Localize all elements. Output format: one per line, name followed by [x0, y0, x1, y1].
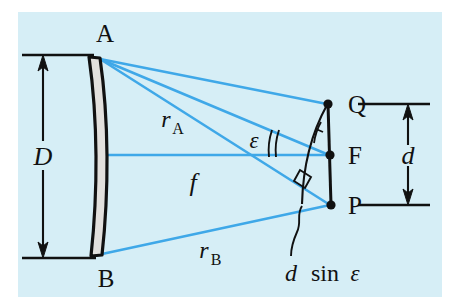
label-point-F: F	[348, 142, 362, 169]
dot-point-Q	[323, 99, 332, 108]
label-path-difference: d sin ε	[285, 260, 360, 286]
curved-aperture-optic	[89, 57, 107, 256]
label-path-difference-epsilon: ε	[350, 261, 360, 286]
label-ray-rA-base: r	[161, 106, 171, 132]
dot-point-P	[326, 200, 335, 209]
label-focal-length-f: f	[189, 168, 200, 197]
label-path-difference-sin: sin	[311, 260, 339, 286]
label-aperture-diameter-D: D	[33, 142, 53, 171]
label-separation-d: d	[402, 141, 416, 170]
dot-point-F	[325, 150, 334, 159]
label-point-P: P	[348, 192, 362, 219]
label-ray-rB-subscript: B	[211, 251, 222, 268]
label-ray-rB: r B	[199, 237, 221, 268]
ray-A-to-F	[100, 59, 329, 155]
label-ray-rB-base: r	[199, 237, 209, 263]
label-point-Q: Q	[348, 91, 366, 118]
image-separation-dimension	[358, 104, 430, 205]
label-ray-rA-subscript: A	[172, 120, 184, 137]
label-aperture-top-A: A	[96, 20, 114, 47]
label-aperture-bottom-B: B	[98, 265, 115, 292]
angle-equality-ticks	[269, 130, 279, 157]
ray-B-to-P	[102, 205, 330, 254]
light-rays-group	[100, 59, 330, 254]
optics-diagram: A B D f r A r B ε Q F P d d sin ε	[0, 0, 451, 308]
label-path-difference-d: d	[285, 260, 298, 286]
label-angle-epsilon: ε	[249, 128, 259, 153]
figure-root: A B D f r A r B ε Q F P d d sin ε	[0, 0, 451, 308]
